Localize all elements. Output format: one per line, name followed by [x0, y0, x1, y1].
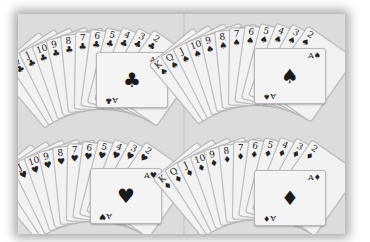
spades-icon: ♠: [281, 64, 299, 88]
card-index: 9 ♦: [207, 150, 220, 170]
card-index: 8 ♦: [221, 146, 232, 165]
ace-corner-index-inverted: A♣: [105, 96, 118, 105]
ace-corner-index-inverted: A♦: [263, 214, 276, 223]
ace-corner-index: A♠: [308, 51, 321, 60]
hearts-icon: ♥: [117, 184, 135, 208]
card-index: 7 ♥: [70, 146, 79, 164]
ace-hearts: ♥A♥A♥: [90, 168, 162, 224]
card-index: 7 ♦: [236, 144, 245, 162]
card-index: 7 ♠: [232, 30, 241, 48]
ace-corner-index-inverted: A♠: [263, 92, 276, 101]
card-index: 9 ♥: [41, 152, 54, 172]
clubs-icon: ♣: [123, 68, 141, 92]
card-index: 8 ♠: [217, 32, 228, 51]
ace-corner-index-inverted: A♥: [99, 212, 112, 221]
card-index: 9 ♣: [49, 40, 62, 60]
card-photo: K ♣Q ♣J ♣10 ♣9 ♣8 ♣7 ♣6 ♣5 ♣4 ♣3 ♣2 ♣♣A♣…: [18, 14, 345, 234]
card-index: 8 ♥: [55, 148, 66, 167]
ace-corner-index: A♦: [308, 173, 321, 182]
card-index: 7 ♣: [78, 34, 87, 52]
diamonds-icon: ♦: [281, 186, 299, 210]
card-index: 9 ♠: [203, 36, 216, 56]
fan-spades: K ♠Q ♠J ♠10 ♠9 ♠8 ♠7 ♠6 ♠5 ♠4 ♠3 ♠2 ♠♠A♠…: [184, 14, 345, 122]
ace-spades: ♠A♠A♠: [254, 48, 326, 104]
card-index: 8 ♣: [63, 36, 74, 55]
ace-diamonds: ♦A♦A♦: [254, 170, 326, 226]
fan-diamonds: K ♦Q ♦J ♦10 ♦9 ♦8 ♦7 ♦6 ♦5 ♦4 ♦3 ♦2 ♦♦A♦…: [184, 124, 345, 232]
